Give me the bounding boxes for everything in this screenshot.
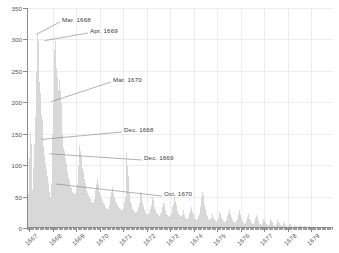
y-tick-mark xyxy=(23,165,27,166)
y-tick-mark xyxy=(23,134,27,135)
gridline-vertical xyxy=(241,8,242,228)
y-tick-label: 300 xyxy=(11,36,22,43)
x-tick-label: 1677 xyxy=(259,232,274,247)
y-tick-mark xyxy=(23,197,27,198)
x-tick-label: 1670 xyxy=(94,232,109,247)
x-tick-label: 1673 xyxy=(165,232,180,247)
x-tick-label: 1669 xyxy=(71,232,86,247)
plague-mortality-bar-chart: Mar. 1668Apr. 1669Mar. 1670Dec. 1668Dec.… xyxy=(0,0,339,253)
annotation-label: Oct. 1670 xyxy=(164,190,192,197)
y-tick-mark xyxy=(23,102,27,103)
x-tick-label: 1671 xyxy=(118,232,133,247)
annotation-leader-line xyxy=(36,22,60,34)
y-tick-label: 50 xyxy=(15,193,22,200)
gridline-vertical xyxy=(288,8,289,228)
annotation-label: Apr. 1669 xyxy=(90,27,118,34)
gridline-vertical xyxy=(311,8,312,228)
annotation-label: Dec. 1669 xyxy=(144,154,174,161)
x-tick-label: 1674 xyxy=(188,232,203,247)
annotation-label: Dec. 1668 xyxy=(124,126,154,133)
y-tick-mark xyxy=(23,39,27,40)
x-tick-label: 1676 xyxy=(235,232,250,247)
x-minor-tick xyxy=(332,228,333,230)
gridline-vertical xyxy=(194,8,195,228)
x-tick-label: 1672 xyxy=(141,232,156,247)
gridline-vertical xyxy=(264,8,265,228)
y-tick-mark xyxy=(23,71,27,72)
y-axis-line xyxy=(27,8,28,228)
x-tick-label: 1679 xyxy=(306,232,321,247)
y-tick-label: 350 xyxy=(11,5,22,12)
plot-area: Mar. 1668Apr. 1669Mar. 1670Dec. 1668Dec.… xyxy=(27,8,333,228)
y-tick-label: 250 xyxy=(11,67,22,74)
x-tick-label: 1678 xyxy=(282,232,297,247)
y-tick-mark xyxy=(23,8,27,9)
y-tick-label: 100 xyxy=(11,162,22,169)
x-tick-label: 1668 xyxy=(47,232,62,247)
y-tick-label: 150 xyxy=(11,130,22,137)
y-tick-label: 0 xyxy=(18,225,22,232)
gridline-vertical xyxy=(147,8,148,228)
annotation-label: Mar. 1668 xyxy=(62,16,91,23)
gridline-vertical xyxy=(217,8,218,228)
annotation-label: Mar. 1670 xyxy=(113,76,142,83)
x-tick-label: 1667 xyxy=(23,232,38,247)
x-tick-label: 1675 xyxy=(212,232,227,247)
gridline-vertical xyxy=(123,8,124,228)
y-tick-label: 200 xyxy=(11,99,22,106)
